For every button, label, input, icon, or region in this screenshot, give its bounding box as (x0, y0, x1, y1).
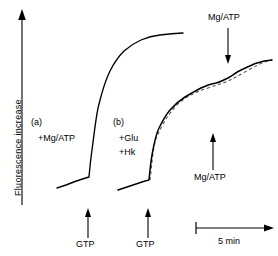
trace-b-dashed-reference (150, 60, 272, 180)
mgatp-label-top: Mg/ATP (208, 13, 240, 22)
panel-b-condition-0: +Glu (119, 134, 138, 143)
mgatp-arrow-top (225, 28, 231, 64)
gtp-arrow-a (85, 208, 91, 238)
mgatp-arrow-bottom (210, 133, 216, 170)
gtp-label-a: GTP (76, 240, 95, 249)
gtp-label-b: GTP (136, 240, 155, 249)
plot-canvas (0, 0, 278, 256)
y-axis-label: Fluorescence increase (14, 99, 23, 196)
panel-b-condition-1: +Hk (119, 148, 135, 157)
panel-b-tag: (b) (113, 118, 124, 127)
figure-panel: Fluorescence increase (a) +Mg/ATP (b) +G… (0, 0, 278, 256)
trace-b-curve (118, 60, 272, 190)
panel-a-tag: (a) (31, 118, 42, 127)
panel-a-condition-0: +Mg/ATP (38, 134, 75, 143)
scale-bar-label: 5 min (218, 237, 240, 246)
mgatp-label-bottom: Mg/ATP (194, 173, 226, 182)
scale-bar (196, 222, 274, 234)
trace-a-curve (57, 33, 183, 188)
gtp-arrow-b (145, 208, 151, 238)
